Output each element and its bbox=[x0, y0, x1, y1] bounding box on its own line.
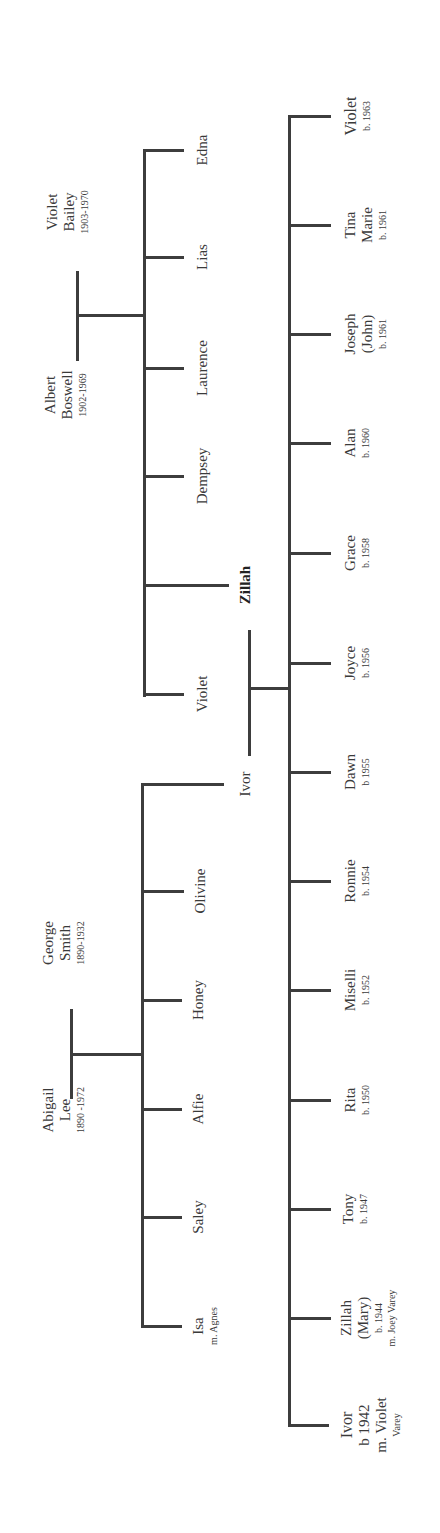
branch-child-joseph bbox=[288, 333, 331, 336]
person-albert-boswell: Albert Boswell 1902-1969 bbox=[42, 345, 89, 445]
person-dempsey: Dempsey bbox=[194, 436, 211, 516]
parents-descent-line bbox=[248, 687, 291, 690]
branch-child-rita bbox=[288, 1099, 331, 1102]
smith-descent-line bbox=[70, 1053, 143, 1056]
branch-saley bbox=[141, 1216, 182, 1219]
boswell-descent-line bbox=[76, 314, 145, 317]
person-ivor-father: Ivor bbox=[237, 744, 254, 824]
person-child-dawn: Dawn b 1955 bbox=[342, 732, 372, 812]
branch-edna bbox=[143, 149, 184, 152]
branch-alfie bbox=[141, 1108, 182, 1111]
branch-child-ronnie bbox=[288, 880, 331, 883]
parents-spouse-line bbox=[248, 630, 251, 756]
branch-ivor-father bbox=[141, 783, 224, 786]
person-honey: Honey bbox=[190, 960, 207, 1040]
branch-child-miselli bbox=[288, 989, 331, 992]
branch-child-zillah-mary bbox=[288, 1317, 331, 1320]
person-abigail-lee: Abigail Lee 1890 -1972 bbox=[40, 1060, 87, 1160]
person-violet-aunt: Violet bbox=[194, 654, 211, 734]
person-child-tina-marie: Tina Marie b. 1961 bbox=[342, 185, 389, 265]
person-child-joseph-john: Joseph (John) b. 1961 bbox=[342, 294, 389, 374]
branch-isa bbox=[141, 1325, 182, 1328]
branch-lias bbox=[143, 256, 184, 259]
person-saley: Saley bbox=[190, 1177, 207, 1257]
person-laurence: Laurence bbox=[194, 328, 211, 408]
branch-honey bbox=[141, 999, 182, 1002]
person-child-ronnie: Ronnie b. 1954 bbox=[342, 841, 372, 921]
smith-children-bar bbox=[141, 783, 144, 1328]
person-child-zillah-mary: Zillah (Mary) b. 1944 m. Joey Varey bbox=[338, 1278, 398, 1358]
person-edna: Edna bbox=[194, 110, 211, 190]
person-lias: Lias bbox=[194, 217, 211, 297]
branch-violet-aunt bbox=[143, 693, 184, 696]
person-olivine: Olivine bbox=[192, 851, 209, 931]
branch-child-tony bbox=[288, 1208, 331, 1211]
person-zillah-mother: Zillah bbox=[237, 545, 254, 625]
person-child-tony: Tony b. 1947 bbox=[340, 1169, 370, 1249]
branch-child-tina bbox=[288, 224, 331, 227]
person-isa: Isa m. Agnes bbox=[190, 1286, 220, 1366]
person-child-violet: Violet b. 1963 bbox=[342, 76, 373, 156]
person-child-alan: Alan b. 1960 bbox=[342, 403, 372, 483]
person-child-miselli: Miselli b. 1952 bbox=[342, 950, 372, 1030]
branch-child-alan bbox=[288, 442, 331, 445]
branch-child-violet bbox=[288, 115, 331, 118]
person-george-smith: George Smith 1890-1932 bbox=[40, 893, 87, 993]
person-child-rita: Rita b. 1950 bbox=[342, 1060, 372, 1140]
person-alfie: Alfie bbox=[190, 1069, 207, 1149]
branch-zillah-mother bbox=[143, 584, 229, 587]
branch-dempsey bbox=[143, 475, 184, 478]
branch-child-ivor bbox=[288, 1424, 329, 1427]
person-child-joyce: Joyce b. 1956 bbox=[342, 623, 372, 703]
person-child-grace: Grace b. 1958 bbox=[342, 513, 372, 593]
boswell-children-bar bbox=[143, 150, 146, 697]
branch-child-grace bbox=[288, 552, 331, 555]
branch-laurence bbox=[143, 367, 184, 370]
branch-olivine bbox=[141, 890, 184, 893]
person-child-ivor: Ivor b 1942 m. Violet Varey bbox=[338, 1385, 403, 1465]
person-violet-bailey: Violet Bailey 1903-1970 bbox=[44, 158, 91, 266]
family-tree-diagram: Violet Bailey 1903-1970 Albert Boswell 1… bbox=[0, 0, 440, 1533]
branch-child-joyce bbox=[288, 662, 331, 665]
branch-child-dawn bbox=[288, 771, 331, 774]
